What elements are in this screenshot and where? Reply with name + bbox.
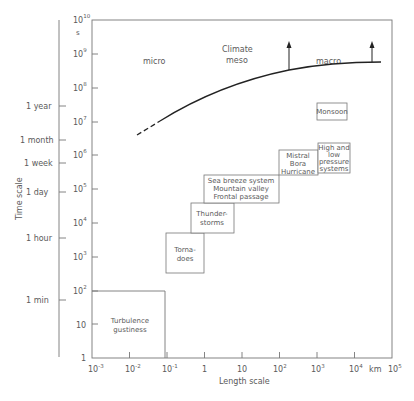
x-unit: km [369, 365, 382, 374]
tick-1-week: 1 week [24, 159, 53, 168]
svg-text:Mountain valley: Mountain valley [213, 185, 269, 193]
tick-1-min: 1 min [26, 296, 49, 305]
svg-text:104: 104 [349, 363, 363, 374]
svg-text:109: 109 [73, 47, 87, 59]
tick-1-month: 1 month [20, 136, 54, 145]
tick-1-year: 1 year [26, 102, 52, 111]
climate-curve-dashed [137, 121, 160, 135]
svg-text:10-1: 10-1 [162, 363, 178, 374]
svg-text:10: 10 [76, 321, 86, 330]
svg-text:107: 107 [73, 115, 87, 127]
box-monsoon: Monsoon [316, 103, 347, 120]
x-ticks [130, 352, 355, 358]
box-mistral: Mistral Bora Hurricane [279, 150, 318, 176]
svg-text:10-3: 10-3 [88, 363, 104, 374]
region-meso: meso [226, 56, 248, 65]
box-sea-breeze: Sea breeze system Mountain valley Fronta… [204, 175, 279, 203]
region-climate: Climate [222, 45, 253, 54]
svg-text:102: 102 [73, 284, 87, 296]
svg-text:1010: 1010 [73, 13, 91, 25]
x-axis-title: Length scale [219, 377, 270, 386]
svg-text:does: does [177, 255, 194, 263]
svg-text:1: 1 [202, 365, 207, 374]
svg-text:102: 102 [273, 363, 287, 374]
svg-text:105: 105 [73, 182, 87, 194]
svg-text:Bora: Bora [290, 160, 306, 168]
scale-diagram: 1 year 1 month 1 week 1 day 1 hour 1 min… [0, 0, 414, 401]
box-high-low-pressure: High and low pressure systems [318, 143, 350, 173]
box-tornadoes: Torna- does [166, 233, 204, 273]
box-thunderstorms: Thunder- storms [191, 203, 234, 233]
svg-text:Thunder-: Thunder- [195, 210, 228, 218]
svg-text:Hurricane: Hurricane [281, 168, 315, 176]
svg-text:storms: storms [200, 219, 224, 227]
svg-text:Monsoon: Monsoon [316, 108, 347, 116]
svg-text:104: 104 [73, 216, 87, 228]
svg-text:Frontal passage: Frontal passage [213, 193, 268, 201]
svg-text:108: 108 [73, 81, 87, 93]
svg-text:105: 105 [388, 363, 402, 374]
svg-text:Torna-: Torna- [173, 246, 196, 254]
svg-text:Mistral: Mistral [286, 152, 310, 160]
svg-text:systems: systems [320, 165, 349, 173]
up-arrow-icon [287, 41, 292, 70]
svg-text:106: 106 [73, 148, 87, 160]
climate-curve [160, 62, 381, 121]
svg-text:10-2: 10-2 [125, 363, 141, 374]
box-turbulence: Turbulence gustiness [92, 291, 165, 358]
svg-text:103: 103 [311, 363, 325, 374]
region-micro: micro [143, 57, 166, 66]
svg-text:gustiness: gustiness [113, 326, 147, 334]
y-tick-labels: 1010 s 109 108 107 106 105 104 103 102 1… [73, 13, 91, 363]
svg-text:Sea breeze system: Sea breeze system [208, 177, 275, 185]
svg-text:103: 103 [73, 250, 87, 262]
time-scale-ticks [59, 106, 66, 300]
x-tick-labels: 10-3 10-2 10-1 1 10 102 103 104 km 105 [88, 363, 402, 374]
y-ticks [92, 54, 98, 324]
up-arrow-icon [370, 41, 375, 62]
y-unit: s [76, 29, 80, 37]
svg-text:10: 10 [237, 365, 247, 374]
svg-text:Turbulence: Turbulence [110, 317, 149, 325]
svg-text:1: 1 [81, 354, 86, 363]
tick-1-day: 1 day [26, 188, 49, 197]
y-axis-title: Time scale [15, 177, 24, 221]
tick-1-hour: 1 hour [26, 234, 53, 243]
